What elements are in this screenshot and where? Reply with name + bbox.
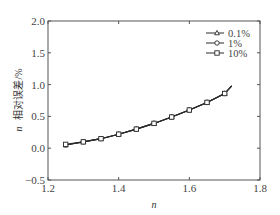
- square-marker: [152, 121, 156, 125]
- x-tick-labels: 1.21.41.61.8: [41, 182, 267, 194]
- square-icon: [215, 51, 219, 55]
- y-tick-label: 0.0: [31, 142, 45, 154]
- y-tick-label: 0.5: [31, 110, 45, 122]
- legend: 0.1%1%10%: [206, 28, 250, 59]
- y-tick-labels: −0.50.00.51.01.52.0: [25, 15, 45, 186]
- y-axis-label-text: 相对误差/%: [12, 68, 24, 119]
- square-marker: [63, 142, 67, 146]
- y-axis-label: n 相对误差/%: [8, 68, 25, 131]
- square-marker: [99, 136, 103, 140]
- y-tick-label: 1.5: [31, 47, 45, 59]
- square-marker: [134, 127, 138, 131]
- square-marker: [222, 91, 226, 95]
- square-marker: [187, 108, 191, 112]
- legend-item: 10%: [206, 48, 248, 59]
- y-axis-label-var: n: [13, 127, 24, 132]
- series-line-1pct: [66, 86, 232, 145]
- chart: 1.21.41.61.8 −0.50.00.51.01.52.0 n n 相对误…: [0, 0, 280, 215]
- series-line-0_1pct: [66, 86, 232, 145]
- x-tick-label: 1.6: [182, 182, 196, 194]
- y-tick-label: 1.0: [31, 79, 45, 91]
- legend-label: 10%: [228, 48, 248, 59]
- x-tick-label: 1.8: [253, 182, 267, 194]
- square-marker: [116, 132, 120, 136]
- x-tick-label: 1.4: [112, 182, 126, 194]
- series-line-10pct: [66, 86, 232, 145]
- series-lines: [66, 86, 232, 145]
- square-marker: [169, 115, 173, 119]
- square-marker: [205, 100, 209, 104]
- square-marker: [81, 140, 85, 144]
- y-tick-label: −0.5: [25, 174, 45, 186]
- circle-icon: [215, 41, 219, 45]
- x-axis-label: n: [152, 199, 157, 210]
- y-tick-label: 2.0: [31, 15, 45, 27]
- data-markers: [63, 91, 227, 147]
- triangle-icon: [215, 30, 220, 34]
